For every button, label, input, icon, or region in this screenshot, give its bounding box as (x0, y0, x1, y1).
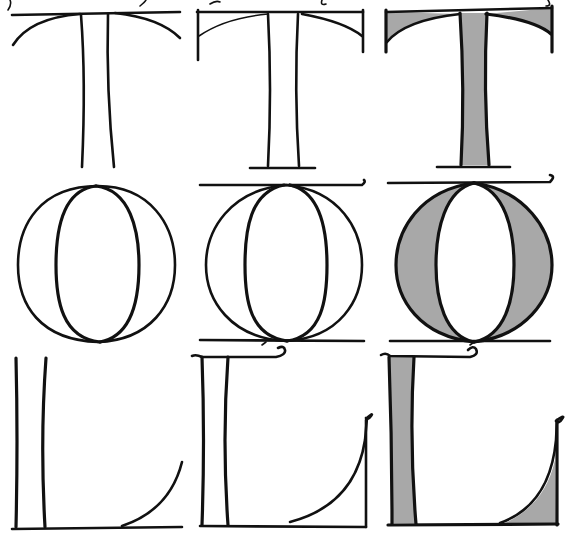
letter-l-filled (381, 347, 563, 525)
letter-t-serifed (197, 10, 363, 168)
letter-t-filled (386, 6, 552, 167)
cropped-top-flourishes (8, 0, 550, 10)
letter-o-filled (388, 175, 553, 342)
lettering-study (0, 0, 576, 536)
letter-l-serifed (192, 347, 372, 527)
letter-l-skeleton (12, 358, 182, 529)
letter-o-serifed (200, 180, 365, 341)
cropped-bottom-marks (262, 342, 474, 345)
letter-o-skeleton (18, 186, 175, 342)
letter-t-skeleton (12, 12, 180, 167)
